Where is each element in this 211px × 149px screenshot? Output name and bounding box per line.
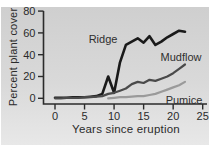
y-tick-label: 80 (23, 5, 35, 17)
x-tick-label: 15 (137, 110, 149, 122)
y-tick-label: 20 (23, 70, 35, 82)
series-label-pumice: Pumice (166, 94, 203, 106)
x-tick-label: 0 (52, 110, 58, 122)
x-tick-label: 5 (81, 110, 87, 122)
y-tick-label: 40 (23, 49, 35, 61)
figure: 0204060800510152025 Percent plant cover … (0, 0, 211, 149)
x-tick-label: 20 (167, 110, 179, 122)
series-label-ridge: Ridge (89, 33, 118, 45)
x-tick-label: 25 (197, 110, 209, 122)
series-lines (55, 31, 185, 99)
y-tick-label: 60 (23, 27, 35, 39)
y-axis-title: Percent plant cover (7, 8, 19, 107)
series-line-ridge (55, 31, 185, 98)
x-tick-label: 10 (108, 110, 120, 122)
series-label-mudflow: Mudflow (161, 51, 202, 63)
x-axis-title: Years since eruption (72, 123, 180, 135)
y-tick-label: 0 (29, 92, 35, 104)
